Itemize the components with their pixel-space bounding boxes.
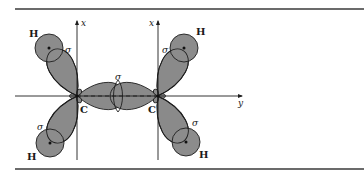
- y-axis-label: y: [237, 98, 244, 108]
- sigma-label-ch-lower-left: σ: [37, 122, 44, 132]
- sigma-label-ch-upper-right: σ: [162, 45, 169, 55]
- carbon-label-left: C: [80, 104, 88, 115]
- carbon-nucleus-right: [156, 94, 159, 97]
- carbon-nucleus-left: [75, 94, 78, 97]
- diagram-canvas: x x y C C H H H H σ σ σ σ σ: [0, 0, 364, 179]
- hydrogen-label-lower-left: H: [27, 151, 36, 162]
- hydrogen-label-upper-left: H: [29, 28, 38, 39]
- hydrogen-label-upper-right: H: [196, 26, 205, 37]
- carbon-label-right: C: [148, 104, 156, 115]
- sigma-label-ch-upper-left: σ: [65, 45, 72, 55]
- hydrogen-label-lower-right: H: [199, 149, 208, 160]
- sigma-label-cc: σ: [115, 72, 122, 82]
- ethylene-sigma-bond-diagram: x x y C C H H H H σ σ σ σ σ: [0, 0, 364, 179]
- right-x-axis-label: x: [149, 18, 154, 28]
- left-x-axis-label: x: [81, 18, 86, 28]
- sigma-label-ch-lower-right: σ: [192, 118, 199, 128]
